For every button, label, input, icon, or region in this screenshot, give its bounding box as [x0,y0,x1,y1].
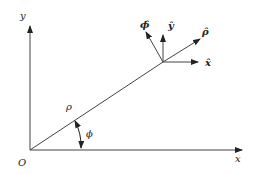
rho-hat-vector [163,39,200,62]
x-hat-label: x̂ [204,57,212,68]
x-axis-label: x [235,153,241,164]
polar-diagram: y x O ρ ϕ x̂ ŷ ρ̂ ϕ̂ [0,0,255,174]
rho-label: ρ [65,101,72,112]
radial-line [30,62,163,150]
rho-hat-label: ρ̂ [201,26,209,37]
angle-arc [75,121,81,148]
phi-hat-label: ϕ̂ [140,19,150,30]
y-axis-label: y [19,10,26,21]
phi-hat-vector [146,32,163,62]
y-hat-label: ŷ [167,20,175,31]
origin-label: O [18,157,26,168]
phi-label: ϕ [86,128,93,139]
